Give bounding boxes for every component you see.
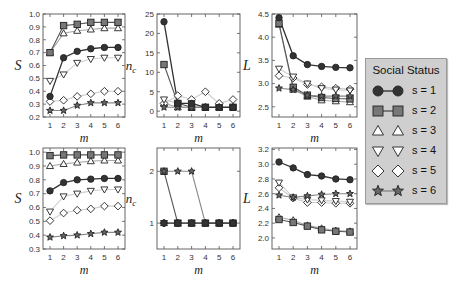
y-tick-label: 2 <box>150 167 155 176</box>
y-tick-label: 3.0 <box>258 160 270 169</box>
legend-marker <box>373 86 383 96</box>
panel-bottom-left: 0.30.40.50.60.70.80.91.0123456mS <box>15 148 126 277</box>
y-tick-label: 0.9 <box>29 23 41 32</box>
y-tick-label: 2.8 <box>258 175 270 184</box>
data-point-s2 <box>290 219 296 225</box>
legend-label: s = 3 <box>412 124 436 136</box>
star-icon <box>370 181 410 201</box>
y-tick-label: 0.4 <box>29 87 41 96</box>
x-tick-label: 1 <box>48 253 53 262</box>
x-tick-label: 2 <box>176 253 181 262</box>
data-point-s1 <box>230 104 236 110</box>
x-tick-label: 2 <box>291 253 296 262</box>
data-point-s1 <box>202 220 208 226</box>
data-point-s2 <box>101 19 107 25</box>
y-tick-label: 1 <box>150 219 155 228</box>
x-tick-label: 3 <box>305 121 310 130</box>
x-axis-label: m <box>310 131 319 145</box>
x-tick-label: 1 <box>277 121 282 130</box>
circle-filled-icon <box>370 81 410 101</box>
triangle-up-icon <box>370 121 410 141</box>
y-tick-label: 0.5 <box>29 217 41 226</box>
x-axis-label: m <box>80 131 89 145</box>
x-tick-label: 6 <box>116 121 121 130</box>
x-tick-label: 3 <box>189 121 194 130</box>
legend-marker <box>373 106 383 116</box>
x-tick-label: 3 <box>75 253 80 262</box>
data-point-s1 <box>333 176 339 182</box>
y-tick-label: 0.8 <box>29 176 41 185</box>
y-tick-label: 2.5 <box>258 103 270 112</box>
y-tick-label: 2.0 <box>258 234 270 243</box>
data-point-s1 <box>202 104 208 110</box>
y-axis-label: S <box>15 191 22 206</box>
data-point-s1 <box>230 220 236 226</box>
legend-marker <box>393 126 404 136</box>
y-tick-label: 5 <box>150 88 155 97</box>
data-point-s2 <box>304 223 310 229</box>
y-tick-label: 15 <box>145 49 154 58</box>
data-point-s1 <box>333 64 339 70</box>
legend-marker <box>393 185 404 195</box>
legend-social-status: Social Status s = 1 s = 2 s = 3 s = 4 s … <box>365 58 447 204</box>
data-point-s1 <box>216 220 222 226</box>
x-tick-label: 5 <box>334 121 339 130</box>
data-point-s2 <box>333 228 339 234</box>
x-tick-label: 5 <box>217 253 222 262</box>
data-point-s1 <box>216 104 222 110</box>
y-tick-label: 0.7 <box>29 48 41 57</box>
data-point-s2 <box>101 152 107 158</box>
data-point-s1 <box>74 177 80 183</box>
plot-frame <box>43 148 125 249</box>
x-tick-label: 4 <box>319 121 324 130</box>
legend-item-s3: s = 3 <box>370 121 446 141</box>
x-tick-label: 2 <box>61 121 66 130</box>
legend-item-s1: s = 1 <box>370 81 446 101</box>
y-tick-label: 3.5 <box>258 56 270 65</box>
x-tick-label: 6 <box>348 121 353 130</box>
plot-frame <box>272 148 357 249</box>
y-tick-label: 2.6 <box>258 190 270 199</box>
data-point-s2 <box>161 61 167 67</box>
x-tick-label: 5 <box>217 121 222 130</box>
data-point-s1 <box>175 100 181 106</box>
data-point-s1 <box>60 55 66 61</box>
y-tick-label: 0.6 <box>29 203 41 212</box>
data-point-s2 <box>88 152 94 158</box>
data-point-s1 <box>188 220 194 226</box>
x-axis-label: m <box>310 263 319 277</box>
y-tick-label: 1.0 <box>29 148 41 157</box>
y-tick-label: 2.2 <box>258 219 270 228</box>
y-tick-label: 4.5 <box>258 10 270 19</box>
x-tick-label: 6 <box>231 121 236 130</box>
x-tick-label: 4 <box>203 121 208 130</box>
legend-item-s5: s = 5 <box>370 161 446 181</box>
x-tick-label: 6 <box>231 253 236 262</box>
data-point-s2 <box>115 152 121 158</box>
data-point-s2 <box>88 19 94 25</box>
square-filled-icon <box>370 101 410 121</box>
legend-label: s = 6 <box>412 184 436 196</box>
x-tick-label: 5 <box>334 253 339 262</box>
data-point-s2 <box>276 216 282 222</box>
legend-item-s4: s = 4 <box>370 141 446 161</box>
y-tick-label: 1.0 <box>29 10 41 19</box>
x-tick-label: 2 <box>291 121 296 130</box>
legend-label: s = 1 <box>412 84 436 96</box>
y-tick-label: 0.7 <box>29 189 41 198</box>
y-tick-label: 2.4 <box>258 204 270 213</box>
x-tick-label: 3 <box>75 121 80 130</box>
data-point-s1 <box>60 179 66 185</box>
y-tick-label: 0.9 <box>29 162 41 171</box>
data-point-s2 <box>47 152 53 158</box>
data-point-s1 <box>304 61 310 67</box>
x-tick-label: 4 <box>203 253 208 262</box>
data-point-s1 <box>88 176 94 182</box>
legend-label: s = 4 <box>412 144 436 156</box>
x-tick-label: 5 <box>102 121 107 130</box>
panel-top-left: 0.20.30.40.50.60.70.80.91.0123456mS <box>15 10 126 145</box>
data-point-s2 <box>60 22 66 28</box>
x-tick-label: 6 <box>116 253 121 262</box>
x-tick-label: 4 <box>89 121 94 130</box>
x-tick-label: 1 <box>48 121 53 130</box>
